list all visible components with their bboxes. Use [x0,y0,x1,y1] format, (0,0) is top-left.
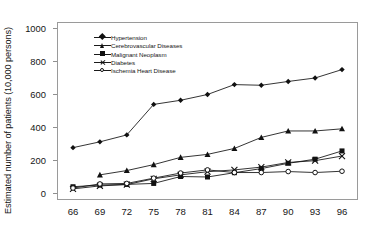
data-point-marker [340,148,345,153]
data-point-marker [286,79,291,84]
legend-item-label: Ischemia Heart Disease [111,67,176,74]
y-axis-label: Estimated number of patients (10,000 per… [0,0,16,241]
data-point-marker [178,171,183,176]
data-point-marker [259,83,264,88]
x-tick-label: 96 [324,206,360,217]
data-point-marker [313,170,318,175]
legend-marker-glyph [100,51,105,56]
data-point-marker [151,176,156,181]
marker-shape [100,51,105,56]
y-tick-label: 1000 [0,23,46,34]
data-point-marker [312,75,317,80]
data-point-marker [178,98,183,103]
data-point-marker [71,186,76,191]
data-point-marker [98,182,103,187]
y-tick-mark [53,94,57,95]
legend-item-label: Cerebrovascular Diseases [111,42,182,49]
marker-shape [99,33,105,39]
legend-item-label: Hypertension [111,34,147,41]
legend-item[interactable]: Hypertension [94,33,210,41]
data-point-marker [340,169,345,174]
legend-item-label: Malignant Neoplasm [111,51,167,58]
y-tick-mark [53,160,57,161]
data-point-marker [339,67,344,72]
legend-item[interactable]: Malignant Neoplasm [94,50,210,58]
y-tick-label: 200 [0,155,46,166]
marker-shape [100,43,104,48]
legend-marker-glyph [100,68,104,72]
legend-item[interactable]: Ischemia Heart Disease [94,67,210,75]
y-tick-mark [53,127,57,128]
data-point-marker [259,170,264,175]
data-point-marker [97,139,102,144]
legend-marker-filled-square-icon [94,50,111,58]
data-point-marker [70,145,75,150]
legend-marker-glyph [100,34,105,39]
y-tick-label: 800 [0,56,46,67]
data-point-marker [232,170,237,175]
legend-marker-filled-diamond-icon [94,33,111,41]
legend-marker-glyph [100,60,105,65]
series-line [100,129,342,175]
y-tick-mark [53,61,57,62]
legend-marker-open-circle-icon [94,67,111,75]
data-point-marker [231,145,237,151]
marker-shape [100,68,104,72]
legend-item-label: Diabetes [111,59,135,66]
y-tick-label: 400 [0,122,46,133]
legend-marker-x-cross-icon [94,59,111,67]
data-point-marker [286,169,291,174]
data-point-marker [151,181,156,186]
series-hypertension [70,67,344,150]
y-tick-mark [53,28,57,29]
legend-marker-glyph [100,43,104,48]
marker-shape [100,60,105,65]
legend-item[interactable]: Cerebrovascular Diseases [94,41,210,49]
data-point-marker [125,181,130,186]
y-tick-label: 600 [0,89,46,100]
chart-legend: HypertensionCerebrovascular DiseasesMali… [94,33,210,75]
data-point-marker [232,82,237,87]
data-point-marker [286,161,291,166]
chart-figure: Estimated number of patients (10,000 per… [0,0,376,241]
legend-marker-filled-triangle-icon [94,42,111,50]
series-line [73,70,342,148]
legend-item[interactable]: Diabetes [94,58,210,66]
y-tick-mark [53,193,57,194]
data-point-marker [205,174,210,179]
y-tick-label: 0 [0,188,46,199]
data-point-marker [205,92,210,97]
series-cerebrovascular-diseases [97,126,345,178]
data-point-marker [205,168,210,173]
